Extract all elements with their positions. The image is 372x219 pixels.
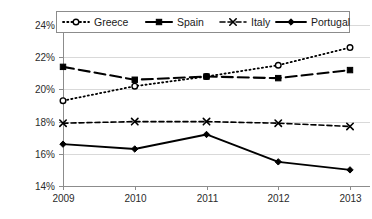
data-point-greece [347, 45, 353, 51]
gridlines-group [63, 26, 370, 187]
chart-canvas: 14%16%18%20%22%24% 20092010201120122013 … [0, 0, 372, 219]
legend-label-greece: Greece [94, 16, 129, 28]
x-axis-tick-label: 2009 [52, 193, 75, 204]
series-line-portugal [63, 134, 350, 169]
y-axis-tick-label: 22% [35, 52, 55, 63]
data-point-portugal [275, 159, 281, 165]
x-axis-labels-group: 20092010201120122013 [52, 193, 362, 204]
legend-marker-spain [156, 19, 161, 24]
legend-label-portugal: Portugal [311, 16, 350, 28]
data-point-portugal [203, 131, 209, 137]
data-point-portugal [60, 141, 66, 147]
series-italy [60, 118, 353, 129]
y-axis-labels-group: 14%16%18%20%22%24% [35, 20, 55, 192]
y-axis-tick-label: 18% [35, 117, 55, 128]
data-point-greece [132, 83, 138, 89]
y-axis-tick-label: 16% [35, 149, 55, 160]
y-axis-tick-label: 24% [35, 20, 55, 31]
data-point-spain [60, 64, 65, 69]
data-point-greece [60, 98, 66, 104]
x-axis-tick-label: 2011 [197, 193, 219, 204]
series-portugal [60, 131, 353, 173]
legend-label-italy: Italy [251, 16, 271, 28]
y-axis-tick-label: 14% [35, 181, 55, 192]
line-chart: 14%16%18%20%22%24% 20092010201120122013 … [0, 0, 372, 219]
chart-legend: GreeceSpainItalyPortugal [57, 12, 351, 33]
data-point-spain [204, 74, 209, 79]
x-axis-tick-label: 2010 [124, 193, 147, 204]
legend-marker-greece [73, 19, 79, 25]
data-point-spain [276, 75, 281, 80]
data-point-greece [275, 62, 281, 68]
data-series-group [60, 45, 353, 173]
data-point-spain [347, 67, 352, 72]
data-point-spain [132, 77, 137, 82]
data-point-portugal [132, 146, 138, 152]
y-axis-tick-label: 20% [35, 84, 55, 95]
axis-lines-group [63, 25, 370, 187]
x-axis-tick-label: 2013 [339, 193, 362, 204]
legend-label-spain: Spain [177, 16, 204, 28]
x-axis-tick-label: 2012 [267, 193, 290, 204]
data-point-portugal [347, 167, 353, 173]
